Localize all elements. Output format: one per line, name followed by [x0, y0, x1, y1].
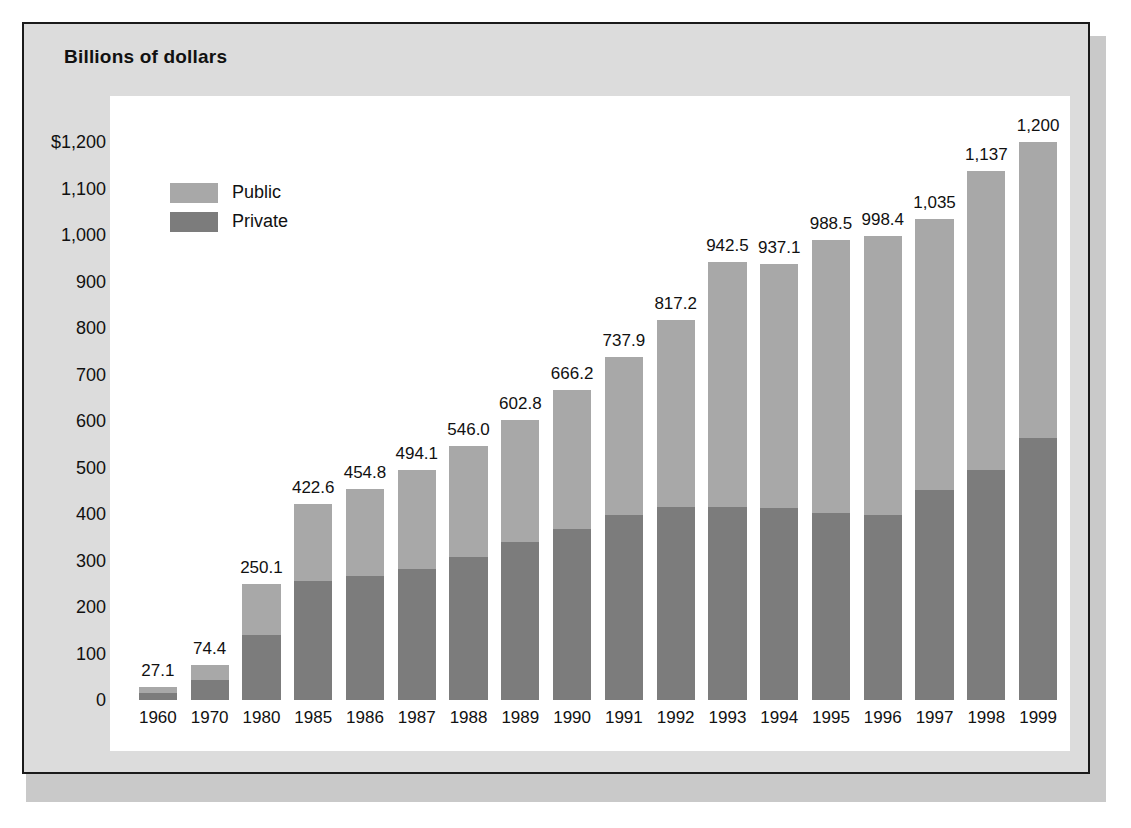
- bar-value-label: 988.5: [810, 214, 853, 234]
- y-axis-tick-1000: 1,000: [32, 225, 106, 246]
- bar-segment-private: [553, 529, 591, 700]
- bar-column: 942.51993: [708, 262, 746, 700]
- y-axis-tick-800: 800: [32, 318, 106, 339]
- bar-value-label: 666.2: [551, 364, 594, 384]
- x-axis-label-1970: 1970: [191, 708, 229, 728]
- bar-segment-private: [346, 576, 384, 700]
- bar-column: 1,2001999: [1019, 142, 1057, 700]
- bar-value-label: 1,035: [913, 193, 956, 213]
- bar-column: 494.11987: [398, 470, 436, 700]
- x-axis-label-1985: 1985: [294, 708, 332, 728]
- bar-column: 666.21990: [553, 390, 591, 700]
- bar-value-label: 546.0: [447, 420, 490, 440]
- bar-value-label: 454.8: [344, 463, 387, 483]
- bar-column: 422.61985: [294, 504, 332, 701]
- bar-column: 998.41996: [864, 236, 902, 700]
- chart-page: Billions of dollars $1,2001,1001,0009008…: [0, 0, 1131, 828]
- bar-column: 1,0351997: [915, 219, 953, 700]
- x-axis-label-1992: 1992: [657, 708, 695, 728]
- bar-column: 937.11994: [760, 264, 798, 700]
- bar-column: 74.41970: [191, 665, 229, 700]
- x-axis-label-1998: 1998: [967, 708, 1005, 728]
- chart-panel: Billions of dollars $1,2001,1001,0009008…: [22, 22, 1090, 774]
- y-axis: $1,2001,1001,000900800700600500400300200…: [32, 24, 106, 776]
- bar-segment-private: [812, 513, 850, 700]
- y-axis-tick-600: 600: [32, 411, 106, 432]
- bar-segment-private: [864, 515, 902, 700]
- y-axis-tick-1100: 1,100: [32, 178, 106, 199]
- x-axis-label-1988: 1988: [450, 708, 488, 728]
- x-axis-label-1996: 1996: [864, 708, 902, 728]
- y-axis-tick-1200: $1,200: [32, 132, 106, 153]
- bar-column: 988.51995: [812, 240, 850, 700]
- bar-segment-private: [449, 557, 487, 700]
- bar-segment-private: [708, 507, 746, 700]
- bar-value-label: 422.6: [292, 478, 335, 498]
- y-axis-tick-700: 700: [32, 364, 106, 385]
- bar-segment-private: [242, 635, 280, 700]
- y-axis-tick-900: 900: [32, 271, 106, 292]
- bar-segment-private: [398, 569, 436, 700]
- x-axis-label-1980: 1980: [243, 708, 281, 728]
- bar-value-label: 817.2: [654, 294, 697, 314]
- x-axis-label-1995: 1995: [812, 708, 850, 728]
- x-axis-label-1989: 1989: [501, 708, 539, 728]
- x-axis-label-1960: 1960: [139, 708, 177, 728]
- bar-column: 454.81986: [346, 489, 384, 700]
- y-axis-tick-400: 400: [32, 504, 106, 525]
- x-axis-label-1999: 1999: [1019, 708, 1057, 728]
- bar-segment-private: [139, 693, 177, 700]
- y-axis-tick-100: 100: [32, 643, 106, 664]
- bar-value-label: 737.9: [603, 331, 646, 351]
- y-axis-tick-0: 0: [32, 690, 106, 711]
- bar-value-label: 937.1: [758, 238, 801, 258]
- bar-column: 27.11960: [139, 687, 177, 700]
- bars-container: 27.1196074.41970250.11980422.61985454.81…: [132, 24, 1064, 776]
- y-axis-tick-300: 300: [32, 550, 106, 571]
- bar-segment-private: [191, 680, 229, 700]
- bar-column: 1,1371998: [967, 171, 1005, 700]
- bar-value-label: 27.1: [141, 661, 174, 681]
- bar-value-label: 602.8: [499, 394, 542, 414]
- bar-segment-private: [967, 470, 1005, 700]
- bar-segment-private: [605, 515, 643, 700]
- bar-segment-private: [657, 507, 695, 700]
- bar-value-label: 74.4: [193, 639, 226, 659]
- bar-column: 546.01988: [449, 446, 487, 700]
- bar-value-label: 942.5: [706, 236, 749, 256]
- bar-value-label: 998.4: [861, 210, 904, 230]
- y-axis-tick-500: 500: [32, 457, 106, 478]
- bar-column: 737.91991: [605, 357, 643, 700]
- bar-column: 817.21992: [657, 320, 695, 700]
- bar-value-label: 1,137: [965, 145, 1008, 165]
- bar-segment-private: [1019, 438, 1057, 700]
- bar-segment-private: [501, 542, 539, 700]
- bar-value-label: 1,200: [1017, 116, 1060, 136]
- y-axis-tick-200: 200: [32, 597, 106, 618]
- bar-value-label: 494.1: [395, 444, 438, 464]
- x-axis-label-1997: 1997: [916, 708, 954, 728]
- bar-segment-private: [294, 581, 332, 700]
- bar-value-label: 250.1: [240, 558, 283, 578]
- x-axis-label-1986: 1986: [346, 708, 384, 728]
- x-axis-label-1991: 1991: [605, 708, 643, 728]
- bar-column: 250.11980: [242, 584, 280, 700]
- x-axis-label-1987: 1987: [398, 708, 436, 728]
- x-axis-label-1994: 1994: [760, 708, 798, 728]
- x-axis-label-1990: 1990: [553, 708, 591, 728]
- x-axis-label-1993: 1993: [709, 708, 747, 728]
- bar-column: 602.81989: [501, 420, 539, 700]
- bar-segment-private: [760, 508, 798, 701]
- bar-segment-private: [915, 490, 953, 700]
